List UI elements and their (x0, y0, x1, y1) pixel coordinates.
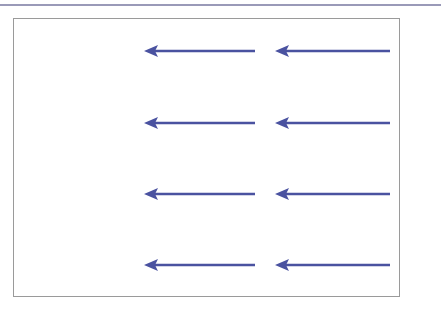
left-arrow-icon (275, 259, 390, 271)
left-arrow-icon (144, 117, 255, 129)
left-arrow-icon (144, 259, 255, 271)
arrow-grid (0, 0, 441, 315)
left-arrow-icon (275, 117, 390, 129)
left-arrow-icon (144, 45, 255, 57)
left-arrow-icon (275, 188, 390, 200)
left-arrow-icon (144, 188, 255, 200)
left-arrow-icon (275, 45, 390, 57)
